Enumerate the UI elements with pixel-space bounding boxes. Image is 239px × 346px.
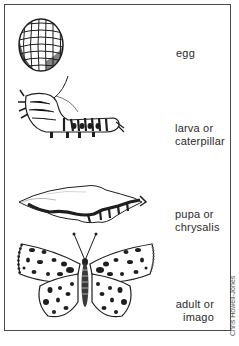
caterpillar-icon <box>16 74 126 144</box>
stage-label-adult: adult or imago <box>168 298 214 324</box>
label-line: chrysalis <box>175 221 220 234</box>
butterfly-icon <box>14 230 156 322</box>
label-line: caterpillar <box>175 135 225 148</box>
egg-icon <box>16 16 70 74</box>
label-line: imago <box>168 311 214 324</box>
label-line: larva or <box>175 122 225 135</box>
label-line: adult or <box>168 298 214 311</box>
chrysalis-icon <box>16 180 151 230</box>
stage-label-larva: larva or caterpillar <box>175 122 225 148</box>
label-line: pupa or <box>175 208 220 221</box>
stage-label-pupa: pupa or chrysalis <box>175 208 220 234</box>
label-line: egg <box>176 47 195 60</box>
stage-label-egg: egg <box>176 47 195 60</box>
illustrator-credit: Chris Howell-Jones <box>229 268 239 336</box>
